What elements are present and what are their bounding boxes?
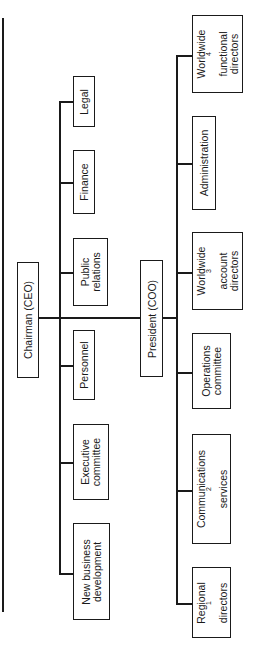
chairman-units-bus	[59, 101, 61, 574]
unit-box-finance: Finance	[73, 150, 95, 214]
unit-box-public-relations: Publicrelations	[73, 238, 108, 306]
chairman-label: Chairman (CEO)	[23, 281, 34, 359]
branch-operations-committee	[176, 372, 192, 374]
branch-executive-committee	[59, 462, 73, 464]
president-units-bus	[176, 55, 178, 604]
branch-public-relations	[59, 272, 73, 274]
unit-box-worldwide-account-directors: Worldwide 3accountdirectors	[192, 232, 243, 310]
unit-box-operations-committee: Operationscommittee	[192, 333, 231, 409]
unit-box-worldwide-functional-directors: Worldwide 4functionaldirectors	[192, 15, 243, 93]
chairman-box: Chairman (CEO)	[17, 262, 39, 378]
branch-personnel	[59, 365, 73, 367]
branch-worldwide-functional	[176, 55, 192, 57]
branch-worldwide-account	[176, 272, 192, 274]
branch-new-business	[59, 573, 73, 575]
page-border-line	[2, 18, 4, 612]
branch-administration	[176, 163, 192, 165]
branch-legal	[59, 101, 73, 103]
unit-box-executive-committee: Executivecommittee	[73, 424, 109, 500]
chairman-president-connector	[38, 317, 140, 319]
president-stub	[162, 317, 177, 319]
branch-communications	[176, 490, 192, 492]
unit-box-regional-directors: Regional 1directors	[192, 567, 231, 638]
branch-regional-directors	[176, 603, 192, 605]
branch-finance	[59, 182, 73, 184]
president-label: President (COO)	[146, 279, 157, 357]
unit-box-administration: Administration	[192, 116, 216, 210]
president-box: President (COO)	[140, 260, 163, 377]
unit-box-new-business-development: New businessdevelopment	[73, 523, 110, 620]
unit-box-legal: Legal	[73, 76, 95, 127]
unit-box-personnel: Personnel	[73, 330, 95, 400]
unit-box-communications-services: Communications 2services	[192, 434, 231, 544]
